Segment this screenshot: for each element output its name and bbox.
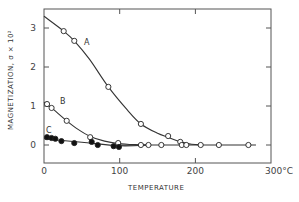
open-circle-marker bbox=[138, 121, 143, 126]
y-tick-label: 2 bbox=[30, 62, 36, 72]
x-axis-title: TEMPERATURE bbox=[127, 184, 184, 192]
y-tick-label: 3 bbox=[30, 23, 36, 33]
series-a bbox=[44, 16, 203, 145]
open-circle-marker bbox=[72, 38, 77, 43]
open-circle-marker bbox=[61, 29, 66, 34]
open-circle-marker bbox=[166, 133, 171, 138]
curve-label-b: B bbox=[60, 97, 66, 106]
plot-border bbox=[44, 9, 271, 163]
x-tick-label: 300°C bbox=[265, 166, 293, 176]
plot-frame bbox=[44, 9, 271, 163]
filled-circle-marker bbox=[89, 139, 94, 144]
open-circle-marker bbox=[159, 142, 164, 147]
filled-circle-marker bbox=[72, 140, 77, 145]
open-circle-marker bbox=[146, 142, 151, 147]
series-baseline bbox=[120, 142, 256, 147]
series-curve bbox=[44, 16, 203, 145]
filled-circle-marker bbox=[59, 139, 64, 144]
filled-circle-marker bbox=[111, 144, 116, 149]
open-circle-marker bbox=[106, 84, 111, 89]
open-circle-marker bbox=[138, 142, 143, 147]
x-tick-label: 0 bbox=[41, 166, 47, 176]
series-layer bbox=[44, 16, 256, 149]
x-tick-label: 100 bbox=[111, 166, 128, 176]
y-axis-title: MAGNETIZATION, σ × 10² bbox=[7, 30, 15, 130]
y-tick-label: 0 bbox=[30, 140, 36, 150]
open-circle-marker bbox=[246, 142, 251, 147]
series-c bbox=[44, 135, 150, 150]
open-circle-marker bbox=[184, 142, 189, 147]
open-circle-marker bbox=[198, 142, 203, 147]
axis-ticks: 0100200300°C0123 bbox=[30, 9, 293, 176]
curve-label-c: C bbox=[46, 126, 52, 135]
open-circle-marker bbox=[44, 101, 49, 106]
open-circle-marker bbox=[216, 142, 221, 147]
x-tick-label: 200 bbox=[187, 166, 204, 176]
curve-label-a: A bbox=[84, 38, 90, 47]
y-tick-label: 1 bbox=[30, 101, 36, 111]
magnetization-chart: 0100200300°C0123 A B C TEMPERATURE MAGNE… bbox=[0, 0, 299, 202]
open-circle-marker bbox=[64, 118, 69, 123]
open-circle-marker bbox=[49, 105, 54, 110]
filled-circle-marker bbox=[95, 142, 100, 147]
filled-circle-marker bbox=[53, 136, 58, 141]
